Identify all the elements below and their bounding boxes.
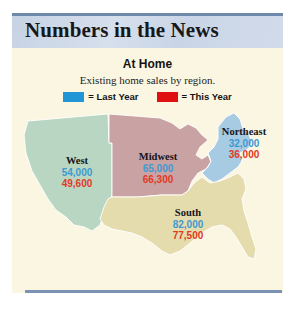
region-value-west-last-year: 54,000 bbox=[46, 167, 108, 178]
chart-subtitle: Existing home sales by region. bbox=[12, 74, 283, 86]
region-name-midwest: Midwest bbox=[122, 151, 194, 163]
legend-swatch-last-year bbox=[63, 92, 84, 102]
region-name-south: South bbox=[152, 207, 224, 219]
region-value-west-this-year: 49,600 bbox=[46, 178, 108, 189]
region-name-northeast: Northeast bbox=[208, 126, 280, 138]
region-value-south-last-year: 82,000 bbox=[152, 219, 224, 230]
region-value-midwest-this-year: 66,300 bbox=[122, 174, 194, 185]
page-title: Numbers in the News bbox=[25, 18, 219, 43]
us-region-map: West 54,000 49,600 Midwest 65,000 66,300… bbox=[12, 107, 283, 287]
legend-label-last-year: = Last Year bbox=[88, 91, 138, 102]
legend-label-this-year: = This Year bbox=[182, 91, 232, 102]
legend: = Last Year = This Year bbox=[12, 91, 283, 102]
legend-item-last-year: = Last Year bbox=[63, 91, 138, 102]
region-value-south-this-year: 77,500 bbox=[152, 230, 224, 241]
graphic-card: Numbers in the News At Home Existing hom… bbox=[12, 13, 283, 293]
region-label-south: South 82,000 77,500 bbox=[152, 207, 224, 241]
chart-title: At Home bbox=[12, 57, 283, 71]
region-value-northeast-last-year: 32,000 bbox=[208, 138, 280, 149]
bottom-rule bbox=[25, 290, 282, 293]
region-name-west: West bbox=[46, 155, 108, 167]
region-value-northeast-this-year: 36,000 bbox=[208, 149, 280, 160]
region-value-midwest-last-year: 65,000 bbox=[122, 163, 194, 174]
region-label-northeast: Northeast 32,000 36,000 bbox=[208, 126, 280, 160]
region-label-midwest: Midwest 65,000 66,300 bbox=[122, 151, 194, 185]
legend-item-this-year: = This Year bbox=[157, 91, 232, 102]
news-graphic-page: Numbers in the News At Home Existing hom… bbox=[0, 0, 295, 309]
region-label-west: West 54,000 49,600 bbox=[46, 155, 108, 189]
legend-swatch-this-year bbox=[157, 92, 178, 102]
